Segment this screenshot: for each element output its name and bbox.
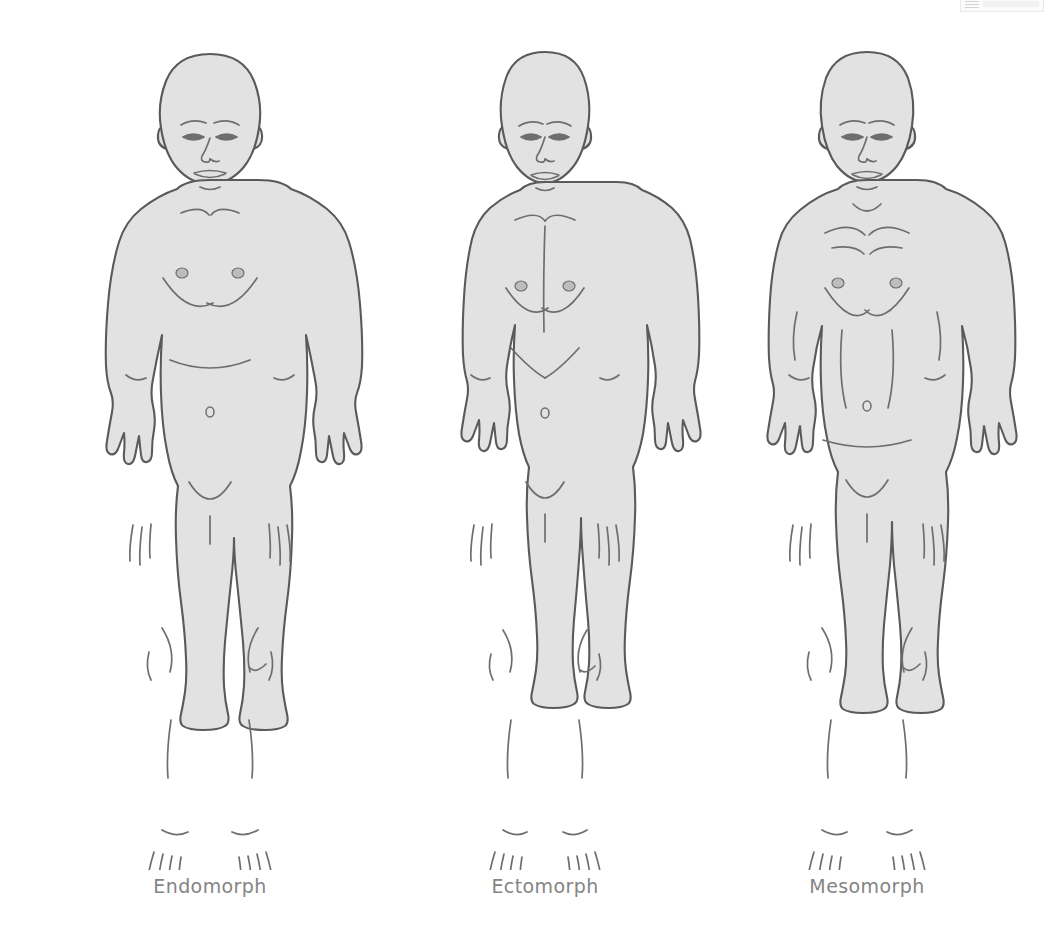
body-type-figure-group: Endomorph <box>0 0 1047 948</box>
figure-endomorph: Endomorph <box>50 30 370 890</box>
figure-label-ectomorph: Ectomorph <box>385 875 705 897</box>
male-body-front-icon <box>50 30 370 870</box>
figure-label-mesomorph: Mesomorph <box>707 875 1027 897</box>
male-body-front-icon <box>707 30 1027 870</box>
figure-ectomorph: Ectomorph <box>385 30 705 890</box>
male-body-front-icon <box>385 30 705 870</box>
figure-mesomorph: Mesomorph <box>707 30 1027 890</box>
figure-label-endomorph: Endomorph <box>50 875 370 897</box>
